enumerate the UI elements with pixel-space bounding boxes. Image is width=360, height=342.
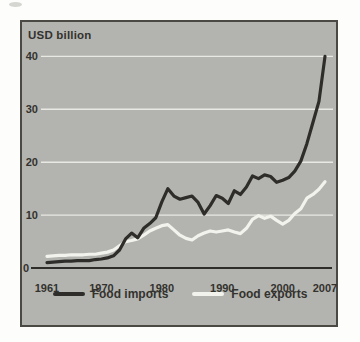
- y-tick-label: 40: [26, 50, 38, 62]
- y-tick-label: 30: [26, 103, 38, 115]
- y-tick-label-zero: 0: [23, 262, 29, 274]
- exports-legend-label: Food exports: [231, 287, 307, 301]
- food-exports-line: [47, 182, 325, 257]
- y-axis-title: USD billion: [28, 29, 92, 41]
- y-tick-label: 20: [26, 156, 38, 168]
- exports-line-swatch: [192, 292, 224, 296]
- legend-item-exports: Food exports: [192, 287, 307, 301]
- y-tick-label: 10: [26, 209, 38, 221]
- legend: Food imports Food exports: [2, 286, 358, 302]
- imports-legend-label: Food imports: [92, 287, 169, 301]
- food-imports-line: [47, 56, 325, 262]
- legend-item-imports: Food imports: [53, 287, 169, 301]
- imports-line-swatch: [53, 292, 85, 296]
